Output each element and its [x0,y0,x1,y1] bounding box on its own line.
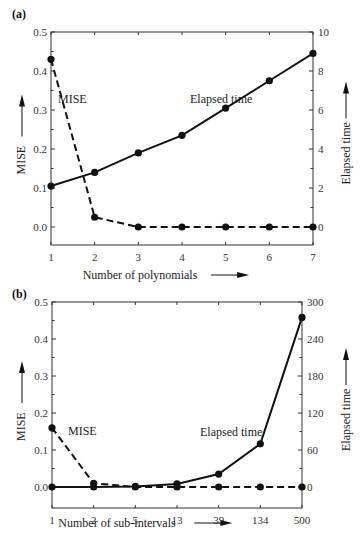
data-point [222,223,229,230]
annotation-elapsed-time: Elapsed time [200,425,262,439]
data-point [298,314,305,321]
y-left-axis-label: MISE [14,412,28,441]
x-tick-label: 4 [179,251,185,263]
data-point [266,77,273,84]
x-axis-label: Number of sub-intervals [58,516,176,530]
x-tick-label: 2 [92,251,98,263]
data-point [47,56,54,63]
data-point [178,132,185,139]
x-tick-label: 5 [223,251,229,263]
data-point [48,424,55,431]
y-right-tick-label: 2 [318,182,324,194]
x-tick-label: 6 [267,251,273,263]
x-tick-label: 7 [310,251,316,263]
x-tick-label: 1 [48,251,54,263]
data-point [215,470,222,477]
data-point [47,182,54,189]
y-left-tick-label: 0.4 [33,65,47,77]
x-tick-label: 500 [294,514,311,526]
y-right-tick-label: 120 [307,407,324,419]
data-point [178,223,185,230]
y-left-tick-label: 0.1 [33,182,47,194]
data-point [309,223,316,230]
series-elapsed-time [52,317,302,487]
y-right-tick-label: 180 [307,370,324,382]
y-left-tick-label: 0.5 [34,296,48,308]
panel-label: (a) [12,7,26,21]
series-elapsed-time [51,53,313,186]
data-point [298,483,305,490]
x-tick-label: 3 [136,251,142,263]
x-axis-label: Number of polynomials [83,268,198,282]
y-left-axis-label: MISE [14,146,28,175]
data-point [309,50,316,57]
figure: 0.00.10.20.30.40.502468101234567(a)MISEE… [0,0,360,551]
panel-label: (b) [12,287,27,301]
y-right-tick-label: 4 [318,143,324,155]
data-point [91,169,98,176]
y-left-tick-label: 0.2 [34,407,48,419]
x-tick-label: 134 [252,514,269,526]
data-point [91,214,98,221]
y-right-tick-label: 6 [318,104,324,116]
data-point [135,223,142,230]
y-left-tick-label: 0.0 [33,221,47,233]
data-point [257,440,264,447]
y-right-tick-label: 10 [318,26,330,38]
annotation-mise: MISE [68,424,97,438]
y-left-tick-label: 0.3 [33,104,47,116]
chart-panel-b: 0.00.10.20.30.40.50601201802403001251339… [12,287,353,530]
data-point [173,480,180,487]
data-point [215,483,222,490]
data-point [266,223,273,230]
data-point [135,149,142,156]
y-right-axis-label: Elapsed time [339,389,353,451]
y-right-tick-label: 0 [318,221,324,233]
y-right-axis-label: Elapsed time [339,122,353,184]
y-left-tick-label: 0.5 [33,26,47,38]
x-tick-label: 1 [49,514,55,526]
y-right-tick-label: 0 [307,481,313,493]
annotation-mise: MISE [58,92,87,106]
chart-panel-a: 0.00.10.20.30.40.502468101234567(a)MISEE… [12,7,353,282]
y-right-tick-label: 240 [307,333,324,345]
y-left-tick-label: 0.2 [33,143,47,155]
y-left-tick-label: 0.0 [34,481,48,493]
data-point [90,483,97,490]
data-point [257,483,264,490]
y-left-tick-label: 0.4 [34,333,48,345]
y-left-tick-label: 0.1 [34,444,48,456]
series-mise [51,59,313,227]
data-point [48,483,55,490]
y-right-tick-label: 300 [307,296,324,308]
y-left-tick-label: 0.3 [34,370,48,382]
data-point [132,483,139,490]
annotation-elapsed-time: Elapsed time [190,92,252,106]
y-right-tick-label: 60 [307,444,319,456]
y-right-tick-label: 8 [318,65,324,77]
